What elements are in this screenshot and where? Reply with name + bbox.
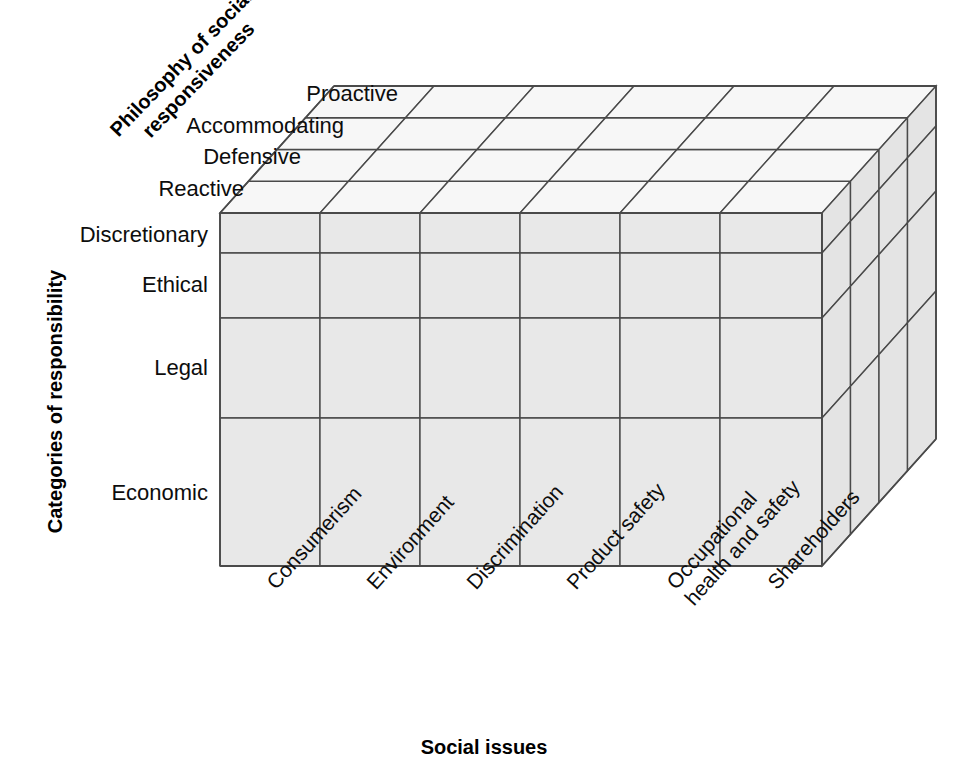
front-cell-r1-c4 — [620, 253, 720, 318]
front-cell-r0-c4 — [620, 213, 720, 253]
depth-label-accommodating: Accommodating — [186, 113, 344, 139]
depth-label-reactive: Reactive — [158, 176, 244, 202]
front-cell-r1-c2 — [420, 253, 520, 318]
axis-title-social-issues: Social issues — [0, 736, 968, 759]
front-cell-r1-c1 — [320, 253, 420, 318]
row-label-ethical: Ethical — [142, 272, 208, 298]
front-cell-r2-c1 — [320, 318, 420, 418]
front-cell-r0-c1 — [320, 213, 420, 253]
front-cell-r1-c5 — [720, 253, 822, 318]
figure-canvas: Reactive Defensive Accommodating Proacti… — [0, 0, 968, 778]
front-cell-r0-c5 — [720, 213, 822, 253]
front-cell-r1-c3 — [520, 253, 620, 318]
depth-label-defensive: Defensive — [203, 144, 301, 170]
axis-title-categories: Categories of responsibility — [44, 237, 67, 567]
row-label-legal: Legal — [154, 355, 208, 381]
depth-label-proactive: Proactive — [306, 81, 398, 107]
front-cell-r2-c3 — [520, 318, 620, 418]
row-label-economic: Economic — [111, 480, 208, 506]
front-cell-r0-c3 — [520, 213, 620, 253]
row-label-discretionary: Discretionary — [80, 222, 208, 248]
front-cell-r2-c0 — [220, 318, 320, 418]
front-cell-r2-c4 — [620, 318, 720, 418]
front-cell-r1-c0 — [220, 253, 320, 318]
front-cell-r2-c2 — [420, 318, 520, 418]
front-cell-r0-c0 — [220, 213, 320, 253]
front-cell-r2-c5 — [720, 318, 822, 418]
front-cell-r0-c2 — [420, 213, 520, 253]
